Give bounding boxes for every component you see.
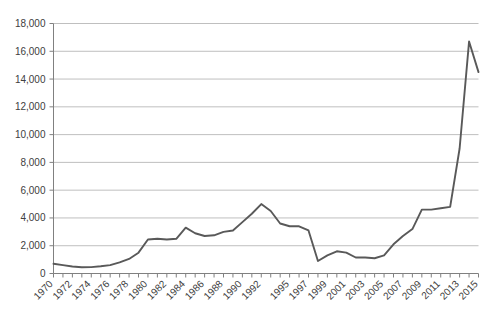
x-tick-label: 1990	[220, 278, 244, 302]
line-chart: 02,0004,0006,0008,00010,00012,00014,0001…	[0, 0, 485, 321]
x-tick-label: 1976	[88, 278, 112, 302]
x-tick-label: 2007	[381, 278, 405, 302]
x-tick-label: 2013	[438, 278, 462, 302]
x-tick-label: 2015	[456, 278, 480, 302]
x-tick-label: 2001	[324, 278, 348, 302]
x-tick-label: 1988	[201, 278, 225, 302]
x-tick-label: 1999	[305, 278, 329, 302]
chart-canvas: 02,0004,0006,0008,00010,00012,00014,0001…	[0, 0, 485, 321]
gridlines-group	[54, 24, 479, 246]
x-tick-marks	[54, 274, 479, 278]
x-tick-label: 1984	[164, 278, 188, 302]
y-tick-label: 8,000	[20, 157, 45, 168]
x-tick-label: 1997	[286, 278, 310, 302]
x-tick-label: 1972	[50, 278, 74, 302]
y-tick-marks	[50, 24, 54, 274]
y-tick-label: 16,000	[15, 46, 46, 57]
x-tick-label: 1978	[107, 278, 131, 302]
data-series-line	[54, 42, 479, 268]
series-path	[54, 42, 479, 268]
x-tick-label: 2011	[419, 278, 442, 301]
x-tick-label: 2009	[400, 278, 424, 302]
x-tick-label: 1974	[69, 278, 93, 302]
y-tick-label: 0	[40, 268, 46, 279]
x-tick-label: 1970	[31, 278, 55, 302]
x-tick-label: 1992	[239, 278, 263, 302]
y-tick-label: 4,000	[20, 212, 45, 223]
y-axis-labels: 02,0004,0006,0008,00010,00012,00014,0001…	[15, 18, 46, 279]
y-tick-label: 12,000	[15, 101, 46, 112]
y-tick-label: 10,000	[15, 129, 46, 140]
x-axis-labels: 1970197219741976197819801982198419861988…	[31, 278, 480, 302]
x-tick-label: 2005	[362, 278, 386, 302]
x-tick-label: 1995	[268, 278, 292, 302]
x-tick-label: 1986	[183, 278, 207, 302]
y-tick-label: 18,000	[15, 18, 46, 29]
x-tick-label: 1982	[145, 278, 169, 302]
y-tick-label: 14,000	[15, 74, 46, 85]
y-tick-label: 2,000	[20, 240, 45, 251]
x-tick-label: 1980	[126, 278, 150, 302]
y-tick-label: 6,000	[20, 185, 45, 196]
x-tick-label: 2003	[343, 278, 367, 302]
